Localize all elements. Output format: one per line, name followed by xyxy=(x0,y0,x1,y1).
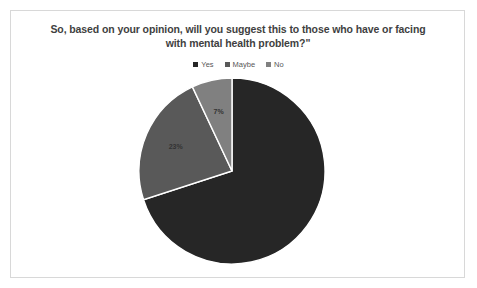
pie-chart-area: 23%7% xyxy=(11,11,466,279)
pie-slices xyxy=(139,78,325,264)
pie-chart: 23%7% xyxy=(137,76,327,266)
chart-frame: So, based on your opinion, will you sugg… xyxy=(10,10,465,278)
pie-label-maybe: 23% xyxy=(169,143,184,150)
pie-label-no: 7% xyxy=(214,108,225,115)
